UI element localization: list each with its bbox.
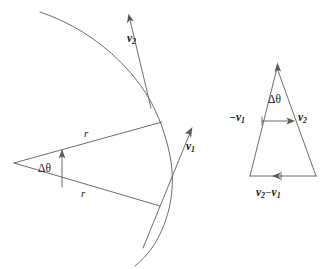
minus-v1-label: −v1 <box>229 112 245 125</box>
velocity-2-label: v2 <box>127 33 136 46</box>
triangle-right-side <box>277 68 316 176</box>
minus-v1-symbol: −v <box>229 111 241 123</box>
minus-v1-subscript: 1 <box>241 116 245 125</box>
lower-radius-line <box>14 163 160 206</box>
angle-delta-theta-label: Δθ <box>38 163 51 175</box>
upper-radius-label: r <box>84 128 88 139</box>
triangle-angle-label: Δθ <box>268 94 281 106</box>
triangle-left-side <box>250 68 277 176</box>
v2-subscript: 2 <box>303 116 307 125</box>
resultant-second-subscript: 1 <box>277 191 281 200</box>
velocity-2-subscript: 2 <box>132 37 136 46</box>
physics-figure: r r Δθ v1 v2 Δθ −v1 v2 v2−v1 <box>0 0 328 269</box>
v2-label: v2 <box>298 112 307 125</box>
figure-vector-graphics <box>0 0 328 269</box>
velocity-1-label: v1 <box>186 141 195 154</box>
circular-arc <box>40 12 172 266</box>
velocity-1-subscript: 1 <box>191 145 195 154</box>
lower-radius-label: r <box>81 188 85 199</box>
resultant-label: v2−v1 <box>256 187 281 200</box>
velocity-1-line <box>143 133 190 248</box>
